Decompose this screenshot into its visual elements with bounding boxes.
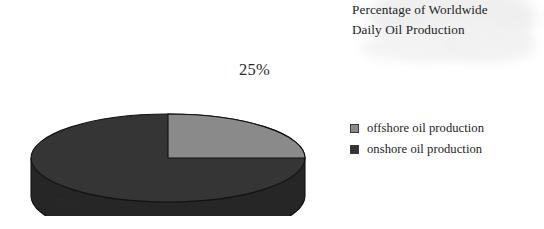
chart-title-line-2: Daily Oil Production [352, 20, 544, 40]
legend-swatch-onshore-icon [350, 145, 359, 154]
legend-swatch-offshore-icon [350, 124, 359, 133]
pie-slice-offshore [168, 114, 305, 158]
legend-item-offshore: offshore oil production [350, 118, 544, 139]
slice-label-onshore: 75% [52, 195, 83, 215]
legend-label-onshore: onshore oil production [367, 142, 482, 157]
chart-legend: offshore oil production onshore oil prod… [350, 118, 544, 160]
pie-graphic [14, 68, 330, 216]
chart-title-line-1: Percentage of Worldwide [352, 0, 544, 20]
slice-label-offshore: 25% [239, 60, 270, 80]
legend-label-offshore: offshore oil production [367, 121, 484, 136]
pie-svg [14, 68, 330, 216]
chart-title: Percentage of Worldwide Daily Oil Produc… [352, 0, 544, 40]
legend-item-onshore: onshore oil production [350, 139, 544, 160]
pie-chart-figure: Percentage of Worldwide Daily Oil Produc… [0, 0, 544, 229]
